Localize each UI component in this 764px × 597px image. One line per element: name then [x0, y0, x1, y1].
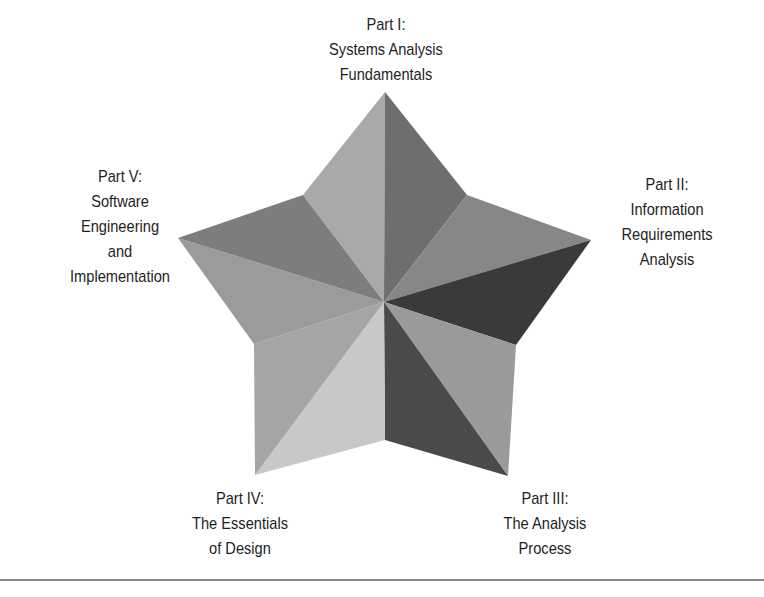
label-part-1-line-2: Systems Analysis: [300, 37, 472, 62]
label-part-2-line-4: Analysis: [598, 247, 736, 272]
horizontal-divider: [0, 579, 764, 581]
label-part-2-line-1: Part II:: [598, 172, 736, 197]
label-part-2: Part II: Information Requirements Analys…: [598, 172, 736, 272]
label-part-5-line-5: Implementation: [51, 264, 189, 289]
label-part-5-line-4: and: [51, 239, 189, 264]
label-part-3-line-2: The Analysis: [481, 511, 610, 536]
diagram-canvas: Part I: Systems Analysis Fundamentals Pa…: [0, 0, 764, 597]
label-part-3-line-3: Process: [481, 536, 610, 561]
label-part-4-line-2: The Essentials: [163, 511, 318, 536]
label-part-1-line-3: Fundamentals: [300, 62, 472, 87]
label-part-5-line-2: Software: [51, 189, 189, 214]
label-part-4-line-1: Part IV:: [163, 486, 318, 511]
label-part-3: Part III: The Analysis Process: [481, 486, 610, 561]
label-part-1: Part I: Systems Analysis Fundamentals: [300, 12, 472, 87]
label-part-5: Part V: Software Engineering and Impleme…: [51, 164, 189, 289]
label-part-5-line-3: Engineering: [51, 214, 189, 239]
five-point-star: [0, 0, 764, 597]
label-part-1-line-1: Part I:: [300, 12, 472, 37]
label-part-2-line-3: Requirements: [598, 222, 736, 247]
label-part-4: Part IV: The Essentials of Design: [163, 486, 318, 561]
label-part-3-line-1: Part III:: [481, 486, 610, 511]
label-part-4-line-3: of Design: [163, 536, 318, 561]
label-part-2-line-2: Information: [598, 197, 736, 222]
label-part-5-line-1: Part V:: [51, 164, 189, 189]
